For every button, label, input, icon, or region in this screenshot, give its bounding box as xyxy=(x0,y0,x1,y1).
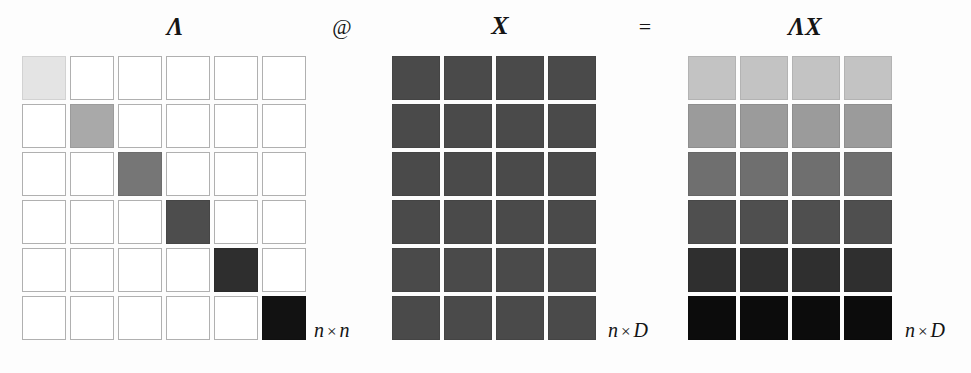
matrix-x xyxy=(392,56,596,340)
matrix-cell xyxy=(688,104,736,148)
matrix-cell xyxy=(688,248,736,292)
shape-rows: n xyxy=(905,319,915,341)
matrix-cell xyxy=(844,152,892,196)
matrix-cell xyxy=(444,200,492,244)
matrix-cell-empty xyxy=(166,56,210,100)
shape-rows: n xyxy=(314,319,324,341)
matrix-cell-empty xyxy=(22,104,66,148)
matrix-cell-empty xyxy=(118,248,162,292)
matrix-cell-empty xyxy=(70,200,114,244)
x-symbol: X xyxy=(455,13,545,39)
matrix-cell-empty xyxy=(214,152,258,196)
lambda-symbol: Λ xyxy=(130,14,220,39)
matrix-cell xyxy=(844,248,892,292)
matrix-cell xyxy=(548,104,596,148)
matrix-cell-empty xyxy=(70,56,114,100)
matrix-cell-empty xyxy=(22,248,66,292)
matrix-cell-empty xyxy=(166,104,210,148)
shape-label-lambda-x: n×D xyxy=(905,320,945,340)
shape-cols: n xyxy=(340,319,350,341)
matrix-cell-diagonal xyxy=(118,152,162,196)
matrix-cell-empty xyxy=(214,200,258,244)
matrix-cell-empty xyxy=(166,248,210,292)
matrix-cell-empty xyxy=(214,104,258,148)
matrix-cell-empty xyxy=(70,248,114,292)
matrix-cell-diagonal xyxy=(166,200,210,244)
matrix-cell xyxy=(496,200,544,244)
shape-times-icon: × xyxy=(618,322,634,341)
matrix-cell-diagonal xyxy=(70,104,114,148)
matrix-cell-empty xyxy=(70,152,114,196)
shape-cols: D xyxy=(931,319,945,341)
matrix-cell xyxy=(688,296,736,340)
matrix-cell xyxy=(392,296,440,340)
matrix-cell xyxy=(548,200,596,244)
matrix-cell xyxy=(740,152,788,196)
matrix-cell xyxy=(792,296,840,340)
matrix-cell-empty xyxy=(118,56,162,100)
matrix-cell-empty xyxy=(262,200,306,244)
matrix-cell xyxy=(688,56,736,100)
matmul-operator-symbol: @ xyxy=(312,17,372,38)
matrix-cell xyxy=(740,56,788,100)
matrix-cell xyxy=(496,248,544,292)
matrix-cell xyxy=(844,296,892,340)
shape-label-x: n×D xyxy=(608,320,648,340)
shape-times-icon: × xyxy=(324,322,340,341)
matrix-cell xyxy=(392,248,440,292)
matrix-cell xyxy=(844,104,892,148)
matrix-cell xyxy=(392,104,440,148)
matrix-cell xyxy=(792,104,840,148)
matrix-cell-empty xyxy=(214,56,258,100)
matrix-cell-empty xyxy=(262,104,306,148)
matrix-cell xyxy=(844,56,892,100)
matrix-cell xyxy=(444,248,492,292)
matrix-cell xyxy=(496,152,544,196)
matrix-cell xyxy=(688,152,736,196)
matrix-cell-empty xyxy=(166,296,210,340)
shape-times-icon: × xyxy=(915,322,931,341)
matrix-cell-empty xyxy=(22,200,66,244)
matrix-cell xyxy=(548,152,596,196)
matrix-cell xyxy=(688,200,736,244)
matrix-cell xyxy=(444,104,492,148)
matrix-cell xyxy=(496,56,544,100)
matrix-cell-empty xyxy=(118,296,162,340)
matrix-cell-empty xyxy=(70,296,114,340)
matrix-cell xyxy=(740,296,788,340)
matrix-cell-diagonal xyxy=(22,56,66,100)
matrix-cell xyxy=(740,200,788,244)
matrix-cell xyxy=(548,296,596,340)
matrix-cell-empty xyxy=(22,296,66,340)
matrix-cell xyxy=(740,104,788,148)
matrix-cell-empty xyxy=(262,152,306,196)
matrix-cell-diagonal xyxy=(262,296,306,340)
matrix-cell xyxy=(792,200,840,244)
matrix-cell-empty xyxy=(166,152,210,196)
matrix-cell xyxy=(496,296,544,340)
matrix-cell xyxy=(548,56,596,100)
matrix-lambda-x xyxy=(688,56,892,340)
shape-cols: D xyxy=(634,319,648,341)
matrix-cell xyxy=(496,104,544,148)
matrix-cell xyxy=(444,296,492,340)
matrix-cell xyxy=(844,200,892,244)
shape-label-lambda: n×n xyxy=(314,320,350,340)
matrix-cell-empty xyxy=(214,296,258,340)
matrix-cell xyxy=(392,152,440,196)
matrix-cell xyxy=(740,248,788,292)
matrix-cell xyxy=(392,56,440,100)
matrix-lambda xyxy=(22,56,306,340)
lambda-x-symbol: ΛX xyxy=(750,14,860,39)
matrix-cell-empty xyxy=(118,104,162,148)
matrix-cell xyxy=(792,56,840,100)
matrix-cell-empty xyxy=(262,248,306,292)
figure-canvas: Λ @ X = ΛX n×n n×D n×D xyxy=(0,0,971,373)
matrix-cell xyxy=(444,152,492,196)
matrix-cell xyxy=(548,248,596,292)
matrix-cell xyxy=(392,200,440,244)
matrix-cell xyxy=(444,56,492,100)
matrix-cell xyxy=(792,248,840,292)
shape-rows: n xyxy=(608,319,618,341)
equals-symbol: = xyxy=(615,16,675,38)
